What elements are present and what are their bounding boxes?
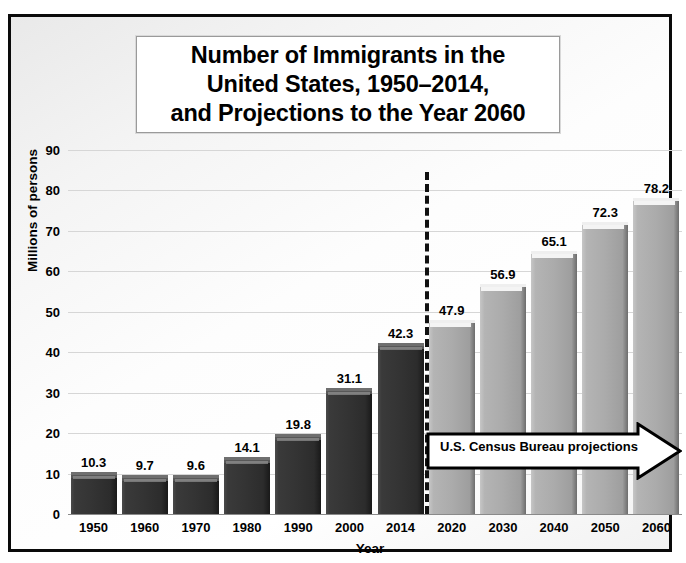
bar-value-2050: 72.3 <box>593 205 618 220</box>
bar-value-2014: 42.3 <box>388 326 413 341</box>
y-tick-30: 30 <box>46 385 60 400</box>
x-tick-1990: 1990 <box>284 520 313 535</box>
x-tick-2014: 2014 <box>386 520 415 535</box>
x-tick-2060: 2060 <box>642 520 671 535</box>
x-tick-1950: 1950 <box>79 520 108 535</box>
bar-1950: 10.31950 <box>71 472 117 514</box>
gridline-0 <box>68 514 682 515</box>
bar-1970: 9.61970 <box>173 475 219 514</box>
chart-title-line-2: United States, 1950–2014, <box>207 70 489 99</box>
bar-value-2060: 78.2 <box>644 181 669 196</box>
chart-title-line-3: and Projections to the Year 2060 <box>171 99 526 128</box>
bar-value-2030: 56.9 <box>490 267 515 282</box>
x-tick-1960: 1960 <box>130 520 159 535</box>
projections-arrow: U.S. Census Bureau projections <box>426 422 682 480</box>
y-tick-10: 10 <box>46 466 60 481</box>
bar-value-1980: 14.1 <box>234 440 259 455</box>
bar-1990: 19.81990 <box>275 434 321 514</box>
y-tick-70: 70 <box>46 223 60 238</box>
y-tick-80: 80 <box>46 183 60 198</box>
y-tick-20: 20 <box>46 426 60 441</box>
x-tick-2000: 2000 <box>335 520 364 535</box>
projections-arrow-label: U.S. Census Bureau projections <box>440 439 638 454</box>
y-axis-label: Millions of persons <box>25 149 40 272</box>
bar-value-2040: 65.1 <box>541 234 566 249</box>
chart-title-line-1: Number of Immigrants in the <box>191 41 506 70</box>
bar-value-1960: 9.7 <box>136 458 154 473</box>
y-tick-0: 0 <box>53 507 60 522</box>
bar-value-1950: 10.3 <box>81 455 106 470</box>
bar-value-1990: 19.8 <box>286 417 311 432</box>
bar-2014: 42.32014 <box>378 343 424 514</box>
chart-figure: Number of Immigrants in the United State… <box>0 0 686 563</box>
bar-1960: 9.71960 <box>122 475 168 514</box>
x-tick-2030: 2030 <box>488 520 517 535</box>
gridline-80 <box>68 190 682 191</box>
bar-value-2020: 47.9 <box>439 303 464 318</box>
x-tick-2020: 2020 <box>437 520 466 535</box>
chart-title: Number of Immigrants in the United State… <box>136 36 560 133</box>
bar-value-2000: 31.1 <box>337 371 362 386</box>
chart-frame: Number of Immigrants in the United State… <box>8 14 672 552</box>
bar-2020: 47.92020 <box>429 320 475 514</box>
x-tick-1970: 1970 <box>181 520 210 535</box>
x-tick-1980: 1980 <box>233 520 262 535</box>
y-tick-40: 40 <box>46 345 60 360</box>
x-tick-2050: 2050 <box>591 520 620 535</box>
y-tick-90: 90 <box>46 143 60 158</box>
x-tick-2040: 2040 <box>540 520 569 535</box>
x-axis-label: Year <box>11 541 686 556</box>
y-tick-60: 60 <box>46 264 60 279</box>
x-axis-label-text: Year <box>356 541 385 556</box>
bar-value-1970: 9.6 <box>187 458 205 473</box>
bar-2000: 31.12000 <box>326 388 372 514</box>
gridline-90 <box>68 150 682 151</box>
bar-1980: 14.11980 <box>224 457 270 514</box>
plot-area: 0102030405060708090 10.319509.719609.619… <box>68 150 682 514</box>
y-tick-50: 50 <box>46 304 60 319</box>
